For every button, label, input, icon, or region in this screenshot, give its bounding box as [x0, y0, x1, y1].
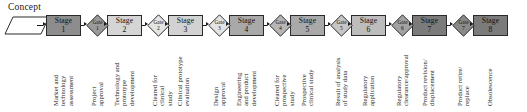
stage-word: Stage	[421, 17, 438, 25]
concept-label: Concept	[8, 2, 41, 12]
caption-line: application	[368, 76, 375, 106]
stage-number: 8	[489, 26, 493, 34]
cap-gate-6: Regulatoryclearance/approval	[395, 54, 410, 106]
stage-word: Stage	[55, 17, 72, 25]
caption-line: prospective	[280, 75, 287, 107]
cap-gate-4: Cleared forprospectivestudy	[273, 75, 295, 107]
arrow-stage-4-to-gate-4	[264, 24, 270, 27]
cap-stage-8: Obsolescence	[486, 69, 493, 106]
caption-line: Result of analysis	[334, 57, 341, 106]
stage-box-1[interactable]: Stage1	[46, 15, 81, 36]
caption-line: replace	[463, 67, 470, 106]
caption-line: clinical	[158, 75, 165, 106]
stage-number: 3	[184, 26, 188, 34]
caption-line: study	[166, 75, 173, 106]
stage-word: Stage	[482, 17, 499, 25]
arrow-stage-1-to-gate-1	[81, 24, 87, 27]
caption-line: Product revision/	[421, 59, 428, 106]
stage-number: 2	[123, 26, 127, 34]
stage-box-8[interactable]: Stage8	[473, 15, 508, 36]
stage-box-7[interactable]: Stage7	[412, 15, 447, 36]
caption-line: displacement	[428, 59, 435, 106]
cap-stage-3: Clinical prototypeevaluation	[176, 56, 191, 106]
caption-line: evaluation	[183, 56, 190, 106]
cap-stage-4: Engineeringand productdevelopment	[235, 71, 257, 106]
caption-line: Product retire/	[456, 67, 463, 106]
caption-line: Technology and	[113, 62, 120, 106]
caption-line: Regulatory	[361, 76, 368, 106]
arrow-stage-3-to-gate-3	[203, 24, 209, 27]
cap-stage-7: Product revision/displacement	[421, 59, 436, 106]
stage-word: Stage	[238, 17, 255, 25]
caption-line: Clinical prototype	[176, 56, 183, 106]
stage-box-3[interactable]: Stage3	[168, 15, 203, 36]
caption-line: Market and	[52, 75, 59, 106]
cap-stage-6: Regulatoryapplication	[361, 76, 376, 106]
stage-box-5[interactable]: Stage5	[290, 15, 325, 36]
caption-line: clearance/approval	[402, 54, 409, 106]
stage-number: 7	[428, 26, 432, 34]
caption-line: clinical study	[307, 69, 314, 106]
stage-number: 4	[245, 26, 249, 34]
cap-gate-5: Result of analysisof study data	[334, 57, 349, 106]
caption-line: approval	[97, 82, 104, 106]
cap-gate-7: Product retire/replace	[456, 67, 471, 106]
caption-line: Design	[212, 82, 219, 106]
stage-word: Stage	[299, 17, 316, 25]
caption-line: Cleared for	[273, 75, 280, 107]
cap-stage-5: Prospectiveclinical study	[300, 69, 315, 106]
caption-line: of study data	[341, 57, 348, 106]
cap-stage-2: Technology andprototypedevelopment	[113, 62, 135, 106]
stage-number: 5	[306, 26, 310, 34]
caption-line: Project	[90, 82, 97, 106]
caption-line: development	[128, 62, 135, 106]
arrow-stage-2-to-gate-2	[142, 24, 148, 27]
arrow-stage-7-to-gate-7	[447, 24, 453, 27]
stage-box-6[interactable]: Stage6	[351, 15, 386, 36]
arrow-stage-5-to-gate-5	[325, 24, 331, 27]
stage-number: 1	[62, 26, 66, 34]
caption-line: study	[288, 75, 295, 107]
process-flow-diagram: Concept Stage1Stage2Stage3Stage4Stage5St…	[0, 0, 527, 112]
caption-line: Regulatory	[395, 54, 402, 106]
cap-gate-2: Cleared forclinicalstudy	[151, 75, 173, 106]
stage-word: Stage	[177, 17, 194, 25]
caption-line: assessment	[67, 75, 74, 106]
caption-line: prototype	[120, 62, 127, 106]
caption-line: Prospective	[300, 69, 307, 106]
arrow-stage-6-to-gate-6	[386, 24, 392, 27]
cap-gate-3: Designapproval	[212, 82, 227, 106]
caption-line: development	[250, 71, 257, 106]
caption-line: approval	[219, 82, 226, 106]
caption-line: technology	[59, 75, 66, 106]
stage-word: Stage	[116, 17, 133, 25]
caption-line: Cleared for	[151, 75, 158, 106]
stage-box-2[interactable]: Stage2	[107, 15, 142, 36]
cap-gate-1: Projectapproval	[90, 82, 105, 106]
caption-line: Obsolescence	[486, 69, 493, 106]
arrow-concept-to-stage-1	[37, 24, 46, 27]
stage-word: Stage	[360, 17, 377, 25]
caption-line: and product	[242, 71, 249, 106]
cap-stage-1: Market andtechnologyassessment	[52, 75, 74, 106]
stage-box-4[interactable]: Stage4	[229, 15, 264, 36]
caption-line: Engineering	[235, 71, 242, 106]
stage-number: 6	[367, 26, 371, 34]
